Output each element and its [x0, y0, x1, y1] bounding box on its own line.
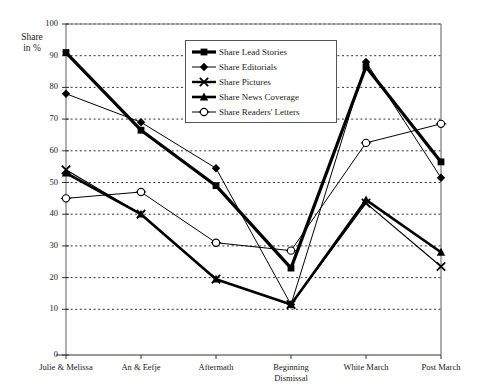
chart-legend: Share Lead StoriesShare EditorialsShare …	[185, 40, 337, 123]
legend-label: Share Lead Stories	[218, 47, 287, 57]
legend-marker-circle-icon	[190, 106, 218, 118]
series-line	[66, 124, 441, 251]
y-tick-label: 80	[36, 81, 58, 91]
legend-marker-x-icon	[190, 76, 218, 88]
x-tick-label: Post March	[395, 362, 487, 373]
data-point-diamond	[437, 174, 445, 182]
legend-item: Share Editorials	[190, 59, 330, 74]
legend-marker-triangle-icon	[190, 91, 218, 103]
series-line	[66, 173, 441, 305]
legend-label: Share News Coverage	[218, 92, 299, 102]
y-tick-label: 50	[36, 177, 58, 187]
legend-label: Share Readers' Letters	[218, 107, 300, 117]
data-point-diamond	[200, 62, 208, 70]
y-tick-label: 30	[36, 240, 58, 250]
legend-item: Share Pictures	[190, 74, 330, 89]
y-tick-label: 10	[36, 303, 58, 313]
y-tick-label: 20	[36, 272, 58, 282]
data-point-square	[213, 182, 220, 189]
data-point-circle	[286, 247, 296, 254]
y-tick-label: 60	[36, 145, 58, 155]
y-tick-label: 70	[36, 113, 58, 123]
data-point-diamond	[212, 164, 220, 172]
legend-marker-square-icon	[190, 46, 218, 58]
line-chart: Share in % 0102030405060708090100 Julie …	[0, 0, 491, 386]
legend-item: Share Lead Stories	[190, 44, 330, 59]
y-tick-label: 0	[36, 349, 58, 359]
data-point-square	[288, 265, 295, 272]
data-point-circle	[61, 195, 71, 202]
data-point-diamond	[62, 90, 70, 98]
legend-label: Share Pictures	[218, 77, 271, 87]
legend-item: Share Readers' Letters	[190, 104, 330, 119]
legend-marker-diamond-icon	[190, 61, 218, 73]
legend-label: Share Editorials	[218, 62, 277, 72]
data-point-circle	[199, 108, 209, 115]
y-tick-label: 40	[36, 208, 58, 218]
data-point-square	[363, 63, 370, 70]
data-point-circle	[361, 139, 371, 146]
data-point-square	[63, 49, 70, 56]
y-tick-label: 90	[36, 50, 58, 60]
data-point-square	[201, 48, 208, 55]
legend-item: Share News Coverage	[190, 89, 330, 104]
y-tick-label: 100	[36, 18, 58, 28]
data-point-square	[438, 158, 445, 165]
data-point-circle	[436, 120, 446, 127]
data-point-square	[138, 127, 145, 134]
